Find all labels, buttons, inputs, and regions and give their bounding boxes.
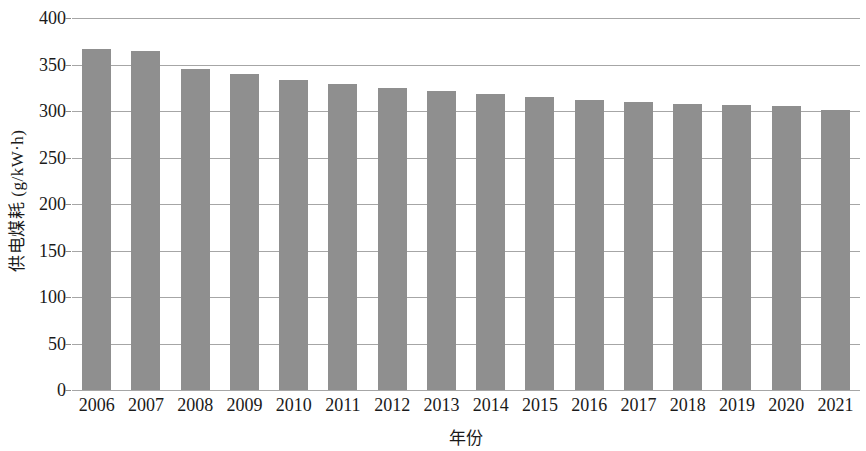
y-axis-tick-labels: 400350300250200150100500 — [0, 18, 66, 390]
bar-slot — [712, 18, 761, 390]
x-axis-tick-labels: 2006200720082009201020112012201320142015… — [72, 392, 860, 418]
y-axis-tick-label: 350 — [6, 56, 66, 74]
bar[interactable] — [378, 88, 407, 390]
bar[interactable] — [821, 110, 850, 390]
y-axis-tick-label: 400 — [6, 9, 66, 27]
y-axis-tick-mark — [65, 65, 71, 66]
y-axis-tick-mark — [65, 251, 71, 252]
gridline — [72, 390, 860, 391]
bar-slot — [368, 18, 417, 390]
bar[interactable] — [722, 105, 751, 391]
y-axis-tick-mark — [65, 297, 71, 298]
bar[interactable] — [624, 102, 653, 390]
bar-slot — [614, 18, 663, 390]
y-axis-tick-mark — [65, 158, 71, 159]
plot-area — [72, 18, 860, 390]
bar-slot — [171, 18, 220, 390]
x-axis-tick-label: 2020 — [762, 392, 811, 418]
y-axis-tick-mark — [65, 390, 71, 391]
bar-slot — [72, 18, 121, 390]
bar-slot — [466, 18, 515, 390]
bar-slot — [811, 18, 860, 390]
y-axis-tick-mark — [65, 344, 71, 345]
bar[interactable] — [230, 74, 259, 390]
x-axis-tick-label: 2018 — [663, 392, 712, 418]
x-axis-tick-label: 2015 — [515, 392, 564, 418]
bar-slot — [515, 18, 564, 390]
x-axis-tick-label: 2019 — [712, 392, 761, 418]
y-axis-tick-label: 100 — [6, 288, 66, 306]
bar[interactable] — [279, 80, 308, 390]
y-axis-tick-label: 300 — [6, 102, 66, 120]
bar-slot — [663, 18, 712, 390]
bar-slot — [220, 18, 269, 390]
x-axis-tick-label: 2007 — [121, 392, 170, 418]
x-axis-tick-label: 2011 — [318, 392, 367, 418]
bar[interactable] — [328, 84, 357, 390]
x-axis-tick-label: 2006 — [72, 392, 121, 418]
bar-chart: 供电煤耗 (g/kW·h) 400350300250200150100500 2… — [0, 0, 866, 451]
x-axis-tick-label: 2009 — [220, 392, 269, 418]
bar[interactable] — [131, 51, 160, 390]
x-axis-tick-label: 2013 — [417, 392, 466, 418]
x-axis-title: 年份 — [72, 424, 860, 449]
x-axis-tick-label: 2008 — [171, 392, 220, 418]
bar-slot — [762, 18, 811, 390]
y-axis-tick-label: 150 — [6, 242, 66, 260]
y-axis-tick-mark — [65, 18, 71, 19]
bar-slot — [565, 18, 614, 390]
y-axis-tick-mark — [65, 111, 71, 112]
bar[interactable] — [82, 49, 111, 390]
x-axis-tick-label: 2017 — [614, 392, 663, 418]
bar[interactable] — [575, 100, 604, 390]
bar[interactable] — [772, 106, 801, 390]
x-axis-tick-label: 2016 — [565, 392, 614, 418]
x-axis-tick-label: 2014 — [466, 392, 515, 418]
x-axis-tick-label: 2010 — [269, 392, 318, 418]
bar-slot — [269, 18, 318, 390]
x-axis-tick-label: 2012 — [368, 392, 417, 418]
y-axis-tick-mark — [65, 204, 71, 205]
y-axis-tick-label: 250 — [6, 149, 66, 167]
bar-slot — [318, 18, 367, 390]
y-axis-tick-label: 50 — [6, 335, 66, 353]
y-axis-tick-label: 0 — [6, 381, 66, 399]
x-axis-tick-label: 2021 — [811, 392, 860, 418]
bar[interactable] — [673, 104, 702, 390]
bars-layer — [72, 18, 860, 390]
bar-slot — [121, 18, 170, 390]
bar[interactable] — [181, 69, 210, 390]
bar[interactable] — [476, 94, 505, 390]
bar[interactable] — [427, 91, 456, 390]
bar-slot — [417, 18, 466, 390]
bar[interactable] — [525, 97, 554, 390]
y-axis-tick-label: 200 — [6, 195, 66, 213]
